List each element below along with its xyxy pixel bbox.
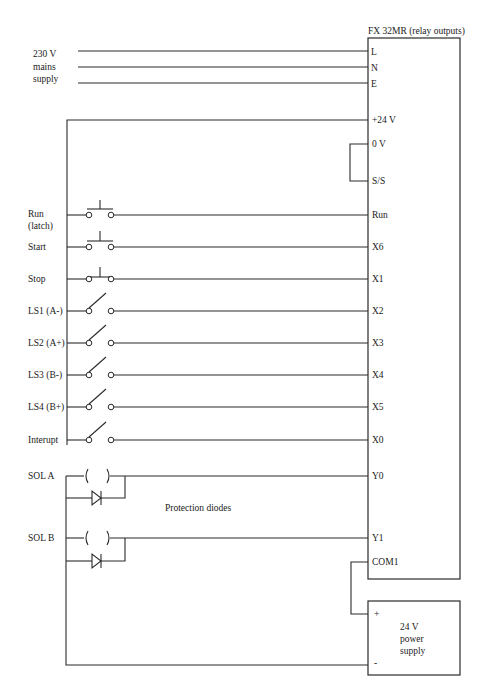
terminal-0v: 0 V [372, 139, 386, 149]
com-connection: COM1 [351, 557, 399, 614]
plc-title: FX 32MR (relay outputs) [368, 26, 465, 37]
input-stop: Stop X1 [28, 267, 384, 284]
terminal-x4: X4 [372, 370, 384, 380]
psu-minus: - [374, 658, 377, 668]
wire-24v-rail [67, 120, 368, 445]
mains-label-2: mains [33, 62, 56, 72]
plc-wiring-diagram: FX 32MR (relay outputs) 230 V mains supp… [0, 0, 486, 689]
input-label: Run [28, 209, 44, 219]
input-interrupt: Interupt X0 [28, 422, 384, 445]
output-label: SOL B [28, 533, 54, 543]
terminal-y1: Y1 [372, 533, 384, 543]
input-label: LS4 (B+) [28, 402, 64, 413]
input-ls4: LS4 (B+) X5 [28, 389, 384, 413]
terminal-E: E [371, 79, 377, 89]
solenoid-coil-icon [86, 531, 88, 545]
input-label: LS1 (A-) [28, 306, 63, 317]
terminal-x3: X3 [372, 338, 384, 348]
plc-unit: FX 32MR (relay outputs) [368, 26, 465, 579]
input-sublabel: (latch) [28, 221, 53, 232]
input-label: Interupt [28, 435, 58, 445]
psu-label-1: 24 V [400, 622, 419, 632]
terminal-y0: Y0 [372, 471, 384, 481]
output-sol-b: SOL B Y1 [28, 531, 384, 568]
input-start: Start X6 [28, 231, 384, 252]
output-sol-a: SOL A Y0 [28, 469, 384, 505]
input-label: LS2 (A+) [28, 338, 65, 349]
terminal-run: Run [372, 210, 388, 220]
limit-switch-icon [89, 357, 106, 372]
mains-label-1: 230 V [33, 49, 56, 59]
psu-label-3: supply [400, 646, 426, 656]
terminal-x2: X2 [372, 306, 384, 316]
solenoid-coil-icon [86, 469, 88, 483]
terminal-x0: X0 [372, 435, 384, 445]
terminal-N: N [371, 63, 378, 73]
limit-switch-icon [89, 325, 106, 340]
input-run-latch: Run (latch) Run [28, 200, 388, 232]
power-supply-24v: + - 24 V power supply [368, 601, 460, 675]
input-label: Stop [28, 274, 46, 284]
wire-com1-to-psu [351, 562, 368, 614]
terminal-com1: COM1 [372, 557, 399, 567]
psu-plus: + [374, 609, 379, 619]
input-label: LS3 (B-) [28, 370, 62, 381]
terminal-x6: X6 [372, 242, 384, 252]
diode-icon [92, 554, 101, 568]
mains-supply: 230 V mains supply L N E [33, 47, 378, 89]
input-ls1: LS1 (A-) X2 [28, 293, 384, 317]
mains-label-3: supply [33, 74, 59, 84]
diode-icon [92, 491, 101, 505]
terminal-L: L [371, 47, 377, 57]
psu-label-2: power [400, 634, 425, 644]
limit-switch-icon [89, 389, 106, 404]
input-label: Start [28, 242, 46, 252]
limit-switch-icon [89, 293, 106, 308]
terminal-ss: S/S [372, 176, 385, 186]
terminal-24v: +24 V [372, 115, 396, 125]
output-label: SOL A [28, 471, 54, 481]
limit-switch-icon [89, 422, 106, 437]
terminal-x5: X5 [372, 402, 384, 412]
wire-0v-ss-link [350, 144, 368, 181]
protection-diodes-label: Protection diodes [165, 503, 232, 513]
input-ls2: LS2 (A+) X3 [28, 325, 384, 349]
terminal-x1: X1 [372, 274, 384, 284]
input-ls3: LS3 (B-) X4 [28, 357, 384, 381]
input-supply: +24 V 0 V S/S [67, 115, 396, 445]
